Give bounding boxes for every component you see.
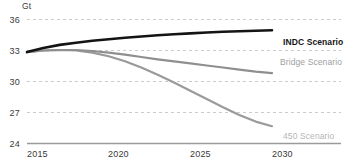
x-tick-2020: 2020: [108, 149, 129, 159]
y-tick-24: 24: [0, 139, 20, 149]
series-line-indc: [27, 30, 272, 52]
x-tick-2025: 2025: [190, 149, 211, 159]
series-label-bridge: Bridge Scenario: [280, 57, 342, 67]
chart-container: Gt 36 33 30 27 24 2015 2020 2025 2030 IN…: [0, 0, 347, 163]
series-label-450: 450 Scenario: [283, 131, 334, 141]
y-tick-30: 30: [0, 77, 20, 87]
y-axis-unit-label: Gt: [22, 1, 31, 11]
x-tick-2030: 2030: [272, 149, 293, 159]
y-tick-36: 36: [0, 15, 20, 25]
series-line-bridge: [27, 50, 272, 73]
series-line-450: [27, 50, 272, 126]
y-tick-33: 33: [0, 46, 20, 56]
y-tick-27: 27: [0, 108, 20, 118]
x-tick-2015: 2015: [27, 149, 48, 159]
series-label-indc: INDC Scenario: [283, 37, 343, 47]
